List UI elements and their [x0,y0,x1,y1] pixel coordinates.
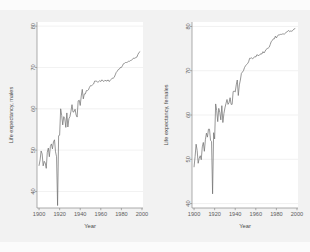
x-axis-title-males: Year [84,223,96,229]
x-tick-label: 1960 [250,211,262,217]
y-tick-label: 60 [185,112,191,118]
x-tick-label: 1940 [74,211,86,217]
y-tick-label: 70 [30,64,36,70]
x-axis-title-females: Year [239,223,251,229]
chart-panel-females: 4050607080 190019201940196019802000 Year… [155,10,310,242]
y-tick-label: 80 [30,23,36,29]
plot-area-females: 4050607080 190019201940196019802000 Year… [155,10,310,242]
top-margin-strip [0,0,310,10]
y-axis-title-males: Life expectancy, males [8,87,14,144]
y-tick-label: 60 [30,106,36,112]
x-tick-label: 2000 [291,211,303,217]
x-tick-label: 1920 [208,211,220,217]
chart-svg-females: 4050607080 190019201940196019802000 Year… [155,10,310,242]
chart-svg-males: 4050607080 190019201940196019802000 Year… [0,10,155,242]
x-tick-label: 1920 [53,211,65,217]
y-tick-label: 70 [185,68,191,74]
y-tick-label: 40 [185,200,191,206]
bottom-margin-strip [0,242,310,252]
x-tick-label: 1980 [270,211,282,217]
x-tick-label: 1960 [95,211,107,217]
y-tick-label: 50 [185,156,191,162]
x-tick-label: 1940 [229,211,241,217]
x-tick-label: 2000 [136,211,148,217]
x-tick-label: 1900 [188,211,200,217]
chart-panel-males: 4050607080 190019201940196019802000 Year… [0,10,155,242]
plot-area-males: 4050607080 190019201940196019802000 Year… [0,10,155,242]
y-axis-title-females: Life expectancy, females [163,84,169,145]
y-tick-label: 40 [30,188,36,194]
x-tick-label: 1900 [33,211,45,217]
plot-bg-males [37,22,143,208]
screenshot-root: 4050607080 190019201940196019802000 Year… [0,0,310,252]
x-tick-label: 1980 [115,211,127,217]
y-tick-label: 50 [30,147,36,153]
y-tick-label: 80 [185,23,191,29]
